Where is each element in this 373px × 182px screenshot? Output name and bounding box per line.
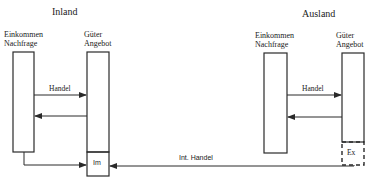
ausland-demand-label-line1: Einkommen — [255, 31, 294, 40]
international-trade-arrow — [110, 165, 354, 166]
export-label: Ex — [347, 148, 355, 157]
inland-supply-box — [87, 52, 109, 152]
ausland-title: Ausland — [302, 8, 335, 19]
inland-demand-label-line1: Einkommen — [4, 30, 43, 39]
ausland-supply-box — [342, 53, 364, 142]
inland-title: Inland — [52, 6, 78, 17]
import-label: Im — [93, 159, 101, 166]
inland-supply-label-line2: Angebot — [84, 39, 112, 48]
inland-demand-label-line2: Nachfrage — [4, 39, 43, 48]
ausland-trade-label: Handel — [302, 84, 324, 93]
inland-trade-label: Handel — [49, 84, 71, 93]
ausland-supply-label-line2: Angebot — [336, 40, 364, 49]
inland-demand-box — [13, 52, 34, 152]
ausland-demand-label-line2: Nachfrage — [255, 40, 294, 49]
demand-to-import-arrow — [24, 152, 86, 165]
ausland-supply-label-line1: Güter — [336, 31, 364, 40]
ausland-supply-label: Güter Angebot — [336, 31, 364, 49]
ausland-demand-box — [264, 53, 287, 153]
inland-supply-label-line1: Güter — [84, 30, 112, 39]
international-trade-label: Int. Handel — [179, 154, 213, 161]
ausland-demand-label: Einkommen Nachfrage — [255, 31, 294, 49]
inland-supply-label: Güter Angebot — [84, 30, 112, 48]
inland-demand-label: Einkommen Nachfrage — [4, 30, 43, 48]
